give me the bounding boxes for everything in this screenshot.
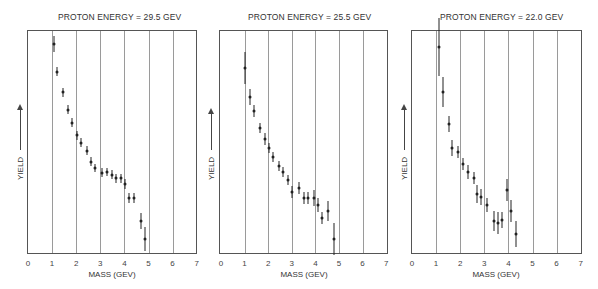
yield-arrow-up-icon	[401, 104, 407, 110]
plot-area	[411, 30, 582, 254]
data-point	[457, 151, 460, 154]
gridline	[436, 31, 437, 253]
gridline	[508, 31, 509, 253]
data-point	[500, 218, 503, 221]
x-tick-label: 3	[482, 259, 486, 268]
x-tick-label: 7	[578, 259, 582, 268]
data-point	[492, 220, 495, 223]
data-point	[441, 91, 444, 94]
data-point	[466, 171, 469, 174]
x-tick-label: 0	[410, 259, 414, 268]
x-tick-label: 5	[530, 259, 534, 268]
gridline	[460, 31, 461, 253]
gridline	[533, 31, 534, 253]
gridline	[557, 31, 558, 253]
data-point	[485, 203, 488, 206]
x-tick-label: 4	[506, 259, 510, 268]
chart-title: PROTON ENERGY = 22.0 GEV	[440, 12, 563, 22]
gridline	[484, 31, 485, 253]
y-axis-label: YIELD	[400, 157, 409, 180]
data-point	[472, 177, 475, 180]
data-point	[437, 46, 440, 49]
x-tick-label: 6	[554, 259, 558, 268]
x-axis-label: MASS (GEV)	[472, 270, 519, 279]
data-point	[462, 162, 465, 165]
x-tick-label: 2	[458, 259, 462, 268]
data-point	[476, 192, 479, 195]
data-point	[479, 196, 482, 199]
data-point	[515, 233, 518, 236]
data-point	[510, 209, 513, 212]
x-tick-label: 1	[434, 259, 438, 268]
data-point	[447, 123, 450, 126]
data-point	[451, 147, 454, 150]
chart-panel-22-0-gev: PROTON ENERGY = 22.0 GEV YIELD MASS (GEV…	[0, 0, 598, 289]
data-point	[505, 188, 508, 191]
data-point	[497, 222, 500, 225]
yield-arrow-shaft	[404, 108, 405, 150]
